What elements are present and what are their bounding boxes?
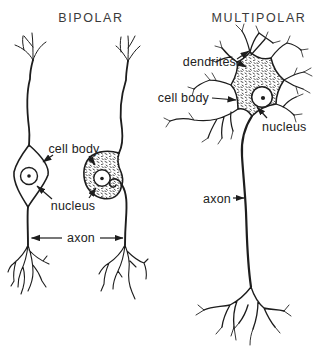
multipolar-cell-body-arrow — [212, 98, 236, 100]
bipolar-nucleus-label: nucleus — [51, 199, 96, 213]
bipolar-right-terminal-branches — [99, 245, 148, 299]
bipolar-right-upper-fiber — [119, 61, 128, 153]
bipolar-left-nucleolus-dot — [27, 174, 31, 178]
bipolar-cell-body-label: cell body — [48, 142, 100, 156]
bipolar-cell-body-arrow-left — [43, 155, 53, 162]
bipolar-right-dendrite-tuft — [116, 36, 140, 61]
bipolar-left-upper-fiber — [27, 60, 33, 146]
multipolar-nucleolus-dot — [261, 96, 265, 100]
multipolar-axon-fiber — [242, 116, 252, 287]
bipolar-axon-label: axon — [67, 231, 95, 245]
multipolar-cell-body-label: cell body — [158, 91, 210, 105]
bipolar-neuron-right-drawing — [84, 36, 148, 299]
multipolar-terminal-twigs — [196, 305, 291, 345]
bipolar-neuron-left-drawing — [8, 33, 49, 294]
multipolar-section: MULTIPOLAR dendrites cell body nucleus a… — [158, 11, 312, 345]
bipolar-nucleus-arrow-left — [37, 186, 52, 199]
neuron-types-figure: BIPOLAR cell body nucleus — [0, 0, 316, 352]
neuron-diagram-canvas: BIPOLAR cell body nucleus — [0, 0, 316, 352]
bipolar-right-nucleolus-dot — [100, 177, 104, 181]
bipolar-right-lower-fiber — [122, 185, 127, 245]
multipolar-terminal-branches — [204, 287, 284, 329]
bipolar-left-dendrite-tuft — [15, 33, 46, 60]
multipolar-nucleus-label: nucleus — [262, 120, 307, 134]
bipolar-section: BIPOLAR cell body nucleus — [8, 11, 148, 299]
multipolar-dendrites-label: dendrites — [183, 55, 236, 69]
multipolar-neuron-drawing — [164, 24, 312, 345]
multipolar-title: MULTIPOLAR — [212, 11, 307, 25]
multipolar-axon-label: axon — [203, 192, 231, 206]
bipolar-left-terminal-branches — [8, 245, 49, 294]
bipolar-title: BIPOLAR — [58, 11, 123, 25]
